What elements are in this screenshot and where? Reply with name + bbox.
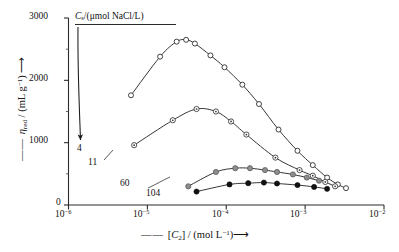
data-point-4-14 xyxy=(344,186,349,191)
data-point-4-0 xyxy=(128,93,133,98)
data-point-11-3 xyxy=(213,109,218,114)
data-point-60-8 xyxy=(316,178,321,183)
data-point-11-4 xyxy=(228,119,233,124)
data-point-60-0 xyxy=(186,184,191,189)
data-point-4-7 xyxy=(240,82,245,87)
ylabel-sym: η xyxy=(16,129,27,134)
xtick-exp: −2 xyxy=(379,208,386,215)
data-point-60-1 xyxy=(213,169,218,174)
data-point-60-6 xyxy=(290,172,295,177)
xtick-label-1e-2: 10−2 xyxy=(369,208,385,219)
xtick-label-1e-5: 10−5 xyxy=(133,208,149,219)
data-point-11-1 xyxy=(170,118,175,123)
xtick-exp: −4 xyxy=(222,208,229,215)
leader-line-104 xyxy=(148,177,170,188)
ylabel-end: ) xyxy=(16,75,27,79)
data-point-11-8 xyxy=(310,173,315,178)
ytick-label-3000: 3000 xyxy=(29,11,48,21)
xtick-base: 10 xyxy=(369,209,379,219)
xtick-label-1e-4: 10−4 xyxy=(212,208,228,219)
xtick-exp: −3 xyxy=(300,208,307,215)
series-label-60: 60 xyxy=(120,178,130,188)
xtick-base: 10 xyxy=(212,209,222,219)
data-point-104-6 xyxy=(312,184,317,189)
xtick-exp: −6 xyxy=(65,208,72,215)
legend-title-rest: /(μmol NaCl/L) xyxy=(84,11,144,21)
series-label-104: 104 xyxy=(146,188,160,198)
data-point-4-3 xyxy=(184,37,189,42)
data-point-11-0 xyxy=(132,143,137,148)
data-point-60-5 xyxy=(274,169,279,174)
ylabel-sub: red xyxy=(21,120,29,129)
xtick-base: 10 xyxy=(290,209,300,219)
xtick-exp: −5 xyxy=(143,208,150,215)
data-point-11-9 xyxy=(323,179,328,184)
data-point-11-7 xyxy=(297,167,302,172)
legend-pointer-arrow xyxy=(78,27,81,140)
data-point-60-4 xyxy=(262,167,267,172)
data-point-4-10 xyxy=(295,148,300,153)
data-point-4-5 xyxy=(208,53,213,58)
series-label-11: 11 xyxy=(88,157,97,167)
ylabel-sup: −1 xyxy=(16,79,24,87)
xlabel-sup: −1 xyxy=(222,229,230,237)
data-point-4-11 xyxy=(310,163,315,168)
y-axis-ticks xyxy=(64,18,69,205)
leader-line-11 xyxy=(104,150,113,160)
data-point-60-7 xyxy=(304,175,309,180)
series-label-4: 4 xyxy=(77,143,82,153)
data-point-104-7 xyxy=(325,186,330,191)
data-point-4-9 xyxy=(276,127,281,132)
curve-series-11 xyxy=(134,108,335,186)
data-point-104-5 xyxy=(295,182,300,187)
data-point-104-1 xyxy=(227,182,232,187)
xtick-base: 10 xyxy=(133,209,143,219)
xtick-base: 10 xyxy=(55,209,65,219)
data-point-11-10 xyxy=(333,184,338,189)
data-point-11-2 xyxy=(194,106,199,111)
x-axis-title: —— [C2] / (mol L−1)⟶ xyxy=(141,228,249,242)
ylabel-mid: / (mL g xyxy=(16,86,27,120)
data-point-4-2 xyxy=(174,39,179,44)
data-point-104-0 xyxy=(194,189,199,194)
xlabel-mid: ] / (mol L xyxy=(182,229,223,240)
ytick-label-0: 0 xyxy=(56,197,61,207)
data-curves xyxy=(131,40,346,192)
ytick-label-1000: 1000 xyxy=(29,135,48,145)
data-point-104-3 xyxy=(261,180,266,185)
data-markers xyxy=(128,37,348,194)
data-point-4-8 xyxy=(256,102,261,107)
xtick-label-1e-3: 10−3 xyxy=(290,208,306,219)
data-point-4-6 xyxy=(222,65,227,70)
data-point-60-2 xyxy=(233,166,238,171)
y-axis-title: —— ηred / (mL g−1) ⟶ xyxy=(15,49,29,169)
axis-lines xyxy=(69,18,385,205)
xtick-label-1e-6: 10−6 xyxy=(55,208,71,219)
data-point-4-4 xyxy=(192,41,197,46)
data-point-11-6 xyxy=(273,155,278,160)
data-point-60-3 xyxy=(247,166,252,171)
data-point-11-5 xyxy=(244,132,249,137)
ytick-label-2000: 2000 xyxy=(29,73,48,83)
figure-panel: 3000 2000 1000 0 10−6 10−5 10−4 10−3 10−… xyxy=(0,0,399,252)
data-point-4-1 xyxy=(158,54,163,59)
data-point-104-2 xyxy=(246,181,251,186)
data-point-104-4 xyxy=(274,181,279,186)
legend-title: Cs/(μmol NaCl/L) xyxy=(75,11,144,21)
